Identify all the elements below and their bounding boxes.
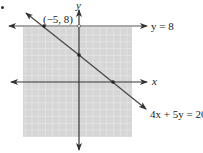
line-label-4x-5y-20: 4x + 5y = 20 [150,109,203,120]
x-axis-label: x [152,76,157,87]
line-label-y-equals-8: y = 8 [151,21,174,32]
inequality-graph: (−5, 8) y x y = 8 4x + 5y = 20 [0,0,203,153]
point-label-intersection: (−5, 8) [43,14,73,25]
y-axis-label: y [76,0,81,11]
point-x-intercept [111,80,115,84]
point-y-8-on-axis [78,25,81,28]
point-y-intercept [77,53,81,57]
